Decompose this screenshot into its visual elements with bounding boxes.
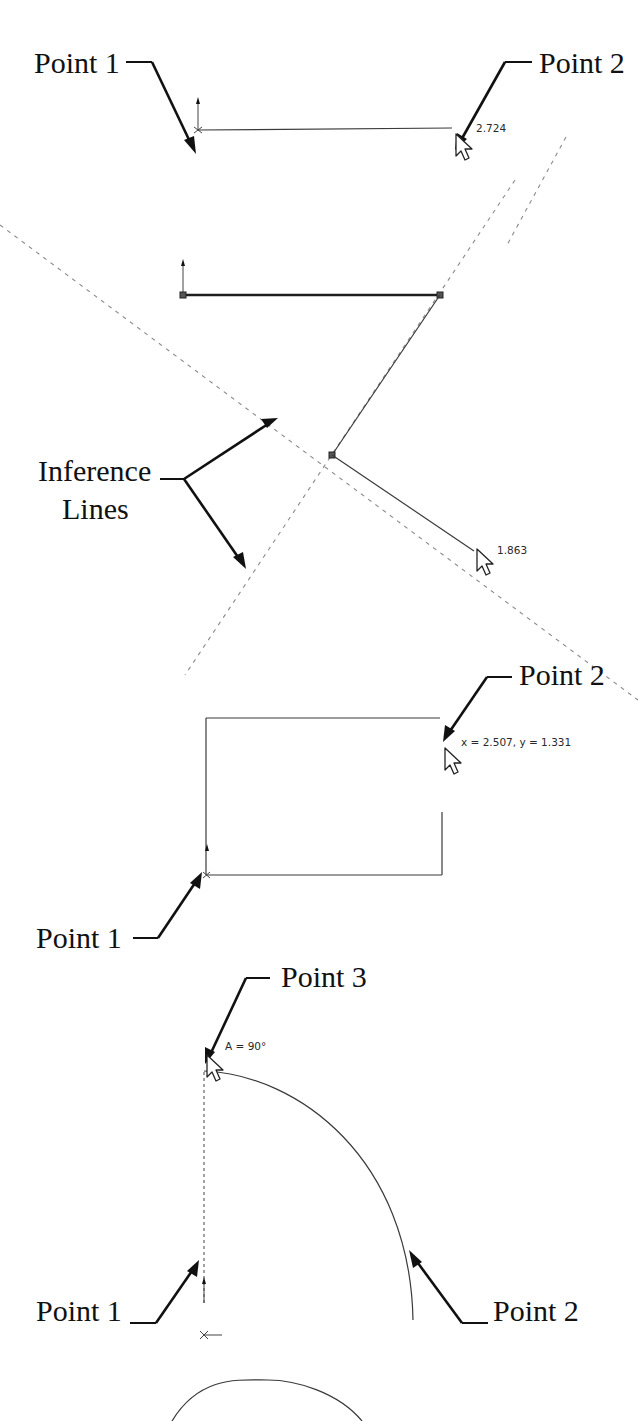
sketch-line [198,128,452,130]
cad-sketch-figure: Point 1 Point 2 2.724 [0,0,638,1421]
sketch-arc [204,1071,413,1320]
panel-line: Point 1 Point 2 2.724 [34,46,625,245]
callout-point-2: Point 2 [493,1294,579,1327]
callout-point-1: Point 1 [36,1294,122,1327]
panel-circle [172,1380,362,1421]
callout-point-2-leader [409,1250,488,1323]
callout-point-3: Point 3 [281,960,367,993]
dimension-readout: 2.724 [476,122,506,134]
sketch-circle [172,1380,362,1421]
sketch-line [332,455,474,551]
endpoint-marker [180,292,186,298]
callout-point-2: Point 2 [519,658,605,691]
callout-point-2-leader [443,677,512,742]
callout-point-1-leader [130,1260,199,1323]
panel-tangent-arc: Inference Lines 1.863 [0,180,638,700]
panel-rectangle: Point 2 x = 2.507, y = 1.331 Point 1 [36,658,605,954]
angle-readout: A = 90° [225,1040,266,1052]
callout-point-2-leader [455,62,532,150]
mouse-cursor-icon [207,1055,223,1081]
coordinate-readout: x = 2.507, y = 1.331 [461,736,571,748]
dimension-readout: 1.863 [497,544,527,556]
callout-inference-leader [160,418,278,569]
callout-point-1: Point 1 [36,921,122,954]
origin-icon [200,1277,222,1339]
origin-icon [194,97,202,133]
callout-point-2: Point 2 [539,46,625,79]
mouse-cursor-icon [477,549,493,575]
callout-inference: Inference [38,454,151,487]
callout-point-1-leader [126,62,196,154]
sketch-line [332,295,440,455]
origin-icon [181,259,185,295]
mouse-cursor-icon [445,748,461,774]
callout-point-1: Point 1 [34,46,120,79]
callout-lines: Lines [62,492,129,525]
panel-centerpoint-arc: Point 3 A = 90° Point 1 Point 2 [36,960,579,1339]
callout-point-1-leader [133,872,202,938]
inference-line [507,137,566,245]
